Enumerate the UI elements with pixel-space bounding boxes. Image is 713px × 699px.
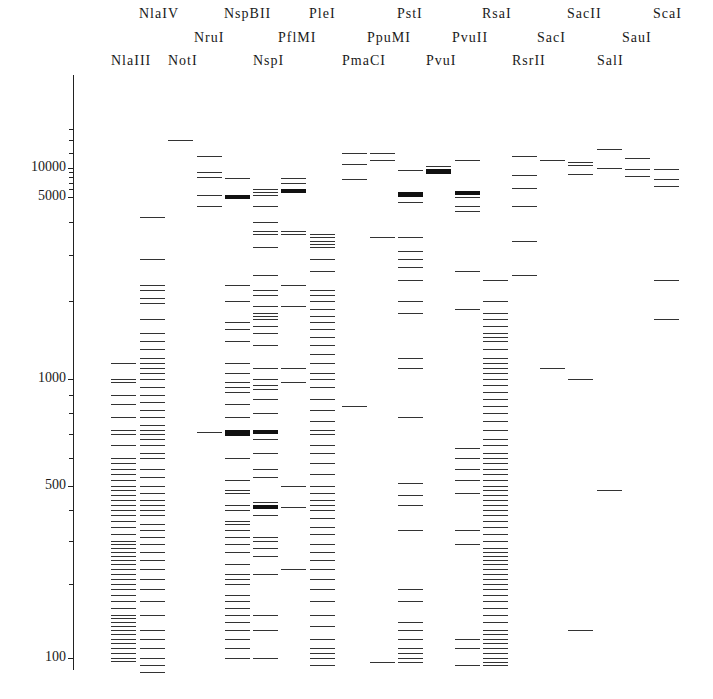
band xyxy=(310,387,335,388)
band xyxy=(111,584,136,585)
band xyxy=(111,544,136,545)
band xyxy=(483,634,508,635)
band xyxy=(253,313,278,314)
band xyxy=(310,665,335,666)
band xyxy=(483,463,508,464)
band xyxy=(512,156,537,157)
band xyxy=(654,169,679,170)
band xyxy=(253,206,278,207)
band xyxy=(483,564,508,565)
band xyxy=(225,530,250,531)
lane-label-sacii: SacII xyxy=(567,6,602,22)
lane-label-noti: NotI xyxy=(168,53,198,69)
band xyxy=(111,615,136,616)
band xyxy=(253,306,278,307)
band xyxy=(654,319,679,320)
band xyxy=(111,515,136,516)
band xyxy=(310,271,335,272)
band xyxy=(225,608,250,609)
band xyxy=(310,399,335,400)
band xyxy=(483,548,508,549)
band xyxy=(197,177,222,178)
band xyxy=(310,345,335,346)
band xyxy=(111,445,136,446)
band xyxy=(225,537,250,538)
band xyxy=(483,430,508,431)
band xyxy=(310,434,335,435)
band xyxy=(310,421,335,422)
band xyxy=(310,237,335,238)
band xyxy=(398,251,423,252)
band xyxy=(568,162,593,163)
y-minor-tick xyxy=(69,183,74,184)
band xyxy=(253,290,278,291)
band xyxy=(398,237,423,238)
band xyxy=(225,392,250,393)
band xyxy=(111,579,136,580)
band xyxy=(111,486,136,487)
band xyxy=(140,639,165,640)
band xyxy=(310,493,335,494)
band xyxy=(253,368,278,369)
band xyxy=(140,439,165,440)
band xyxy=(398,170,423,171)
band xyxy=(225,622,250,623)
band xyxy=(310,234,335,235)
band xyxy=(310,445,335,446)
band xyxy=(111,569,136,570)
band xyxy=(140,500,165,501)
band xyxy=(483,349,508,350)
band xyxy=(310,259,335,260)
band xyxy=(111,630,136,631)
band xyxy=(111,505,136,506)
band xyxy=(310,589,335,590)
lane-label-saui: SauI xyxy=(622,30,652,46)
band xyxy=(140,615,165,616)
band xyxy=(140,368,165,369)
restriction-fragment-chart: 1000050001000500100 NlaIIINlaIVNotINruIN… xyxy=(0,0,713,699)
band xyxy=(483,326,508,327)
band xyxy=(225,490,250,491)
band xyxy=(398,630,423,631)
band xyxy=(370,160,395,161)
band xyxy=(140,373,165,374)
band xyxy=(483,527,508,528)
band xyxy=(310,552,335,553)
band xyxy=(111,626,136,627)
band xyxy=(253,379,278,380)
band xyxy=(310,505,335,506)
band xyxy=(281,178,306,179)
band xyxy=(111,480,136,481)
y-tick xyxy=(68,168,74,169)
band xyxy=(111,379,136,380)
band xyxy=(225,341,250,342)
band xyxy=(310,626,335,627)
band xyxy=(140,569,165,570)
band xyxy=(426,172,451,174)
y-tick-label: 1000 xyxy=(6,370,66,386)
band xyxy=(483,319,508,320)
band xyxy=(253,295,278,296)
band xyxy=(111,534,136,535)
band xyxy=(140,303,165,304)
band xyxy=(140,510,165,511)
band xyxy=(253,399,278,400)
band xyxy=(310,527,335,528)
y-minor-tick xyxy=(69,189,74,190)
band xyxy=(140,402,165,403)
lane-label-scai: ScaI xyxy=(653,6,682,22)
y-tick-label: 10000 xyxy=(6,159,66,175)
band xyxy=(455,193,480,195)
band xyxy=(111,622,136,623)
lane-label-nspbii: NspBII xyxy=(224,6,271,22)
lane-label-pmaci: PmaCI xyxy=(342,53,386,69)
band xyxy=(140,544,165,545)
band xyxy=(310,534,335,535)
band xyxy=(398,589,423,590)
band xyxy=(111,661,136,662)
band xyxy=(455,493,480,494)
band xyxy=(253,333,278,334)
band xyxy=(111,434,136,435)
band xyxy=(140,349,165,350)
band xyxy=(483,474,508,475)
